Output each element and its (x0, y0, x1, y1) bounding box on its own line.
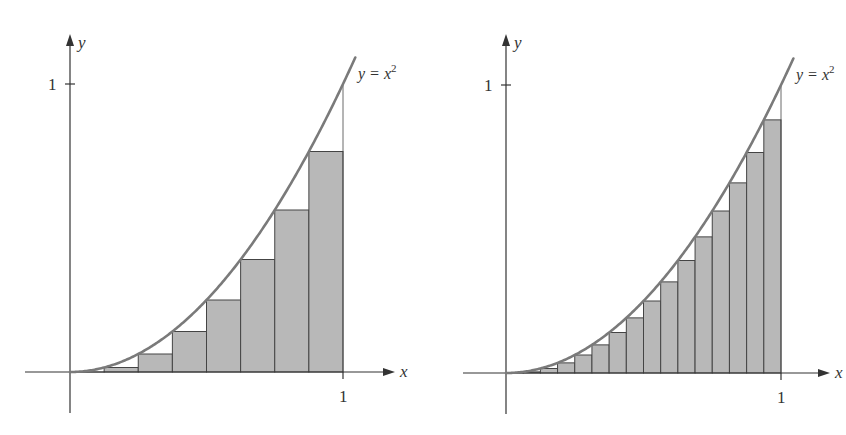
riemann-rectangle (644, 301, 661, 373)
curve-label: y = x2 (356, 62, 397, 83)
y-axis-label: y (76, 33, 86, 52)
riemann-rectangle (540, 369, 557, 374)
riemann-rectangle (558, 363, 575, 373)
riemann-rectangle (138, 354, 172, 372)
x-axis-arrow-icon (383, 368, 395, 376)
y-axis-arrow-icon (502, 34, 510, 46)
riemann-rectangle (609, 333, 626, 374)
y-tick-label: 1 (48, 75, 57, 94)
curve-label-exponent: 2 (391, 62, 397, 74)
chart-left-n8: y x 1 1 y = x2 (25, 33, 408, 413)
riemann-rectangle (626, 318, 643, 373)
x-axis-label: x (834, 363, 843, 382)
riemann-rectangle (309, 152, 343, 373)
x-tick-label: 1 (339, 387, 348, 406)
riemann-rectangle (661, 282, 678, 373)
riemann-rectangle (241, 260, 275, 373)
bars (70, 84, 343, 372)
bars (506, 85, 781, 373)
riemann-rectangle (207, 300, 241, 372)
x-tick-label: 1 (777, 388, 786, 407)
riemann-rectangle (695, 237, 712, 373)
chart-right-n16: y x 1 1 y = x2 (463, 33, 843, 414)
riemann-rectangle (172, 332, 206, 373)
riemann-sum-figure: y x 1 1 y = x2 y x 1 1 y = x2 (0, 0, 846, 435)
y-axis-arrow-icon (66, 34, 74, 46)
curve-label-exponent: 2 (829, 63, 835, 75)
curve-label: y = x2 (794, 63, 835, 84)
riemann-rectangle (712, 211, 729, 373)
riemann-rectangle (747, 153, 764, 374)
x-axis-label: x (399, 362, 408, 381)
x-axis-arrow-icon (818, 369, 830, 377)
y-tick-label: 1 (484, 76, 493, 95)
riemann-rectangle (729, 183, 746, 373)
y-axis-label: y (512, 33, 522, 52)
curve-label-base: y = x (794, 66, 829, 84)
riemann-rectangle (678, 261, 695, 374)
riemann-rectangle (592, 345, 609, 373)
curve-label-base: y = x (356, 65, 391, 83)
riemann-rectangle (104, 368, 138, 373)
riemann-rectangle (575, 355, 592, 373)
riemann-rectangle (275, 210, 309, 372)
riemann-rectangle (764, 120, 781, 373)
